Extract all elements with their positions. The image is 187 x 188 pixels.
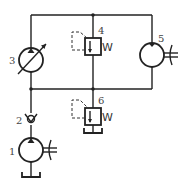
label-1: 1 bbox=[9, 146, 15, 157]
component-2-check-valve: 2 bbox=[16, 114, 37, 126]
component-1-pump: 1 bbox=[9, 138, 57, 177]
spring-symbol-4: W bbox=[102, 41, 113, 54]
label-4: 4 bbox=[98, 25, 104, 36]
label-6: 6 bbox=[98, 95, 104, 106]
label-5: 5 bbox=[158, 33, 164, 44]
label-2: 2 bbox=[16, 115, 22, 126]
component-5-motor: 5 bbox=[140, 33, 178, 67]
spring-symbol-6: W bbox=[102, 111, 113, 124]
component-3-variable-pump: 3 bbox=[9, 44, 46, 74]
hydraulic-circuit-diagram: 3 W 4 5 W 6 2 bbox=[0, 0, 187, 188]
label-3: 3 bbox=[9, 55, 15, 66]
